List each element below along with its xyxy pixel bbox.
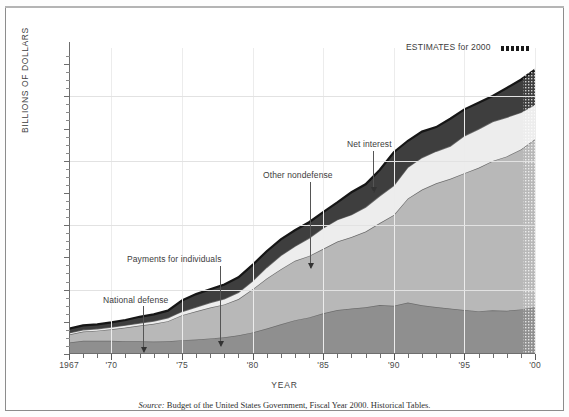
- x-tick-minor: [309, 354, 310, 358]
- x-tick-minor: [295, 354, 296, 358]
- stacked-area-plot: [69, 48, 535, 354]
- y-tick-minor: [66, 209, 70, 210]
- x-tick-minor: [351, 354, 352, 358]
- y-tick-minor: [66, 177, 70, 178]
- x-tick-minor: [267, 354, 268, 358]
- y-tick-major: [64, 322, 70, 323]
- annotation-arrow-payments-for-individuals: [220, 266, 221, 346]
- x-tick-minor: [83, 354, 84, 358]
- x-axis-tick-label: '95: [459, 360, 471, 370]
- x-tick-minor: [507, 354, 508, 358]
- y-tick-major: [64, 96, 70, 97]
- x-axis-tick-label: '80: [247, 360, 259, 370]
- x-axis-title: YEAR: [6, 380, 563, 390]
- x-axis-tick-label: '75: [176, 360, 188, 370]
- y-tick-minor: [66, 145, 70, 146]
- x-tick-minor: [196, 354, 197, 358]
- y-tick-minor: [66, 169, 70, 170]
- y-tick-minor: [66, 185, 70, 186]
- chart-frame: BILLIONS OF DOLLARS 02004006008001,0001,…: [5, 7, 564, 411]
- x-tick-minor: [210, 354, 211, 358]
- source-text: Budget of the United States Government, …: [167, 400, 431, 410]
- annotation-arrow-net-interest: [373, 151, 374, 192]
- plot-area: 02004006008001,0001,2001,4001,6001,800 1…: [69, 48, 535, 354]
- x-tick-minor: [154, 354, 155, 358]
- vertical-gridline: [253, 48, 254, 354]
- estimates-swatch-icon: [501, 46, 531, 51]
- x-tick-minor: [238, 354, 239, 358]
- gridline: [69, 161, 535, 162]
- gridline: [69, 290, 535, 291]
- vertical-gridline: [182, 48, 183, 354]
- y-tick-minor: [66, 330, 70, 331]
- y-tick-minor: [66, 298, 70, 299]
- gridline: [69, 96, 535, 97]
- y-tick-minor: [66, 233, 70, 234]
- y-tick-major: [64, 257, 70, 258]
- y-axis-title: BILLIONS OF DOLLARS: [20, 27, 30, 133]
- y-tick-minor: [66, 120, 70, 121]
- y-tick-minor: [66, 201, 70, 202]
- x-axis-tick-label: '70: [106, 360, 118, 370]
- vertical-gridline: [111, 48, 112, 354]
- x-tick-minor: [125, 354, 126, 358]
- source-note: Source: Budget of the United States Gove…: [6, 400, 563, 410]
- vertical-gridline: [323, 48, 324, 354]
- y-tick-major: [64, 193, 70, 194]
- y-tick-minor: [66, 56, 70, 57]
- x-tick-minor: [281, 354, 282, 358]
- x-tick-minor: [479, 354, 480, 358]
- y-tick-minor: [66, 104, 70, 105]
- x-tick-minor: [337, 354, 338, 358]
- vertical-gridline: [394, 48, 395, 354]
- annotation-arrow-other-nondefense: [310, 182, 311, 268]
- estimates-label: ESTIMATES for 2000: [406, 42, 491, 52]
- y-tick-minor: [66, 80, 70, 81]
- x-tick-minor: [493, 354, 494, 358]
- y-tick-minor: [66, 137, 70, 138]
- y-tick-minor: [66, 153, 70, 154]
- annotation-label-payments-for-individuals: Payments for individuals: [127, 254, 222, 264]
- x-axis-tick-label: '85: [317, 360, 329, 370]
- y-tick-minor: [66, 112, 70, 113]
- y-tick-minor: [66, 273, 70, 274]
- annotation-label-national-defense: National defense: [103, 295, 168, 305]
- y-tick-minor: [66, 72, 70, 73]
- y-tick-minor: [66, 217, 70, 218]
- x-tick-minor: [140, 354, 141, 358]
- y-tick-minor: [66, 241, 70, 242]
- y-tick-major: [64, 225, 70, 226]
- x-tick-minor: [408, 354, 409, 358]
- gridline: [69, 225, 535, 226]
- x-tick-minor: [366, 354, 367, 358]
- y-tick-minor: [66, 314, 70, 315]
- x-tick-minor: [450, 354, 451, 358]
- x-axis-tick-label: '90: [388, 360, 400, 370]
- y-tick-minor: [66, 338, 70, 339]
- vertical-gridline: [535, 48, 536, 354]
- estimate-hatch-overlay: [523, 48, 535, 354]
- vertical-gridline: [464, 48, 465, 354]
- x-tick-minor: [422, 354, 423, 358]
- y-tick-minor: [66, 265, 70, 266]
- chart-page: BILLIONS OF DOLLARS 02004006008001,0001,…: [0, 0, 569, 417]
- y-tick-minor: [66, 282, 70, 283]
- annotation-arrow-national-defense: [143, 306, 144, 352]
- annotation-label-net-interest: Net interest: [347, 139, 392, 149]
- x-tick-minor: [168, 354, 169, 358]
- y-tick-minor: [66, 346, 70, 347]
- x-tick-minor: [436, 354, 437, 358]
- y-tick-minor: [66, 88, 70, 89]
- x-tick-minor: [224, 354, 225, 358]
- x-tick-minor: [521, 354, 522, 358]
- x-tick-minor: [380, 354, 381, 358]
- y-tick-major: [64, 290, 70, 291]
- y-tick-major: [64, 64, 70, 65]
- x-tick-minor: [97, 354, 98, 358]
- y-tick-major: [64, 161, 70, 162]
- x-axis-tick-label: '00: [529, 360, 541, 370]
- x-axis-tick-label: 1967: [59, 360, 79, 370]
- y-tick-minor: [66, 249, 70, 250]
- annotation-label-other-nondefense: Other nondefense: [263, 170, 333, 180]
- y-tick-minor: [66, 306, 70, 307]
